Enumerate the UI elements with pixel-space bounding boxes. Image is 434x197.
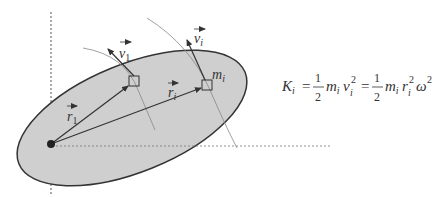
svg-text:mi: mi xyxy=(326,78,340,96)
svg-text:Ki: Ki xyxy=(282,78,295,96)
svg-text:2: 2 xyxy=(351,74,356,85)
svg-text:i: i xyxy=(350,87,353,98)
kinetic-energy-equation: Ki = 1 2 mi v i 2 = 1 2 mi r i 2 ω 2 xyxy=(282,66,434,114)
svg-text:vi: vi xyxy=(194,31,203,48)
rotation-axis-dot xyxy=(47,140,55,148)
svg-text:=: = xyxy=(361,78,369,94)
svg-text:1: 1 xyxy=(315,71,321,85)
vi-label: vi xyxy=(194,29,205,48)
svg-text:ω: ω xyxy=(416,78,427,94)
rigid-body xyxy=(0,22,265,197)
svg-text:2: 2 xyxy=(409,74,414,85)
svg-text:2: 2 xyxy=(315,90,321,104)
svg-text:2: 2 xyxy=(427,74,432,85)
svg-text:i: i xyxy=(408,87,411,98)
svg-text:v1: v1 xyxy=(119,46,130,63)
equation-svg: Ki = 1 2 mi v i 2 = 1 2 mi r i 2 ω 2 xyxy=(282,66,434,110)
v1-label: v1 xyxy=(119,42,131,63)
svg-text:=: = xyxy=(302,78,310,94)
svg-text:v: v xyxy=(343,78,350,94)
svg-text:mi: mi xyxy=(385,78,399,96)
svg-text:1: 1 xyxy=(374,71,380,85)
svg-text:2: 2 xyxy=(374,90,380,104)
